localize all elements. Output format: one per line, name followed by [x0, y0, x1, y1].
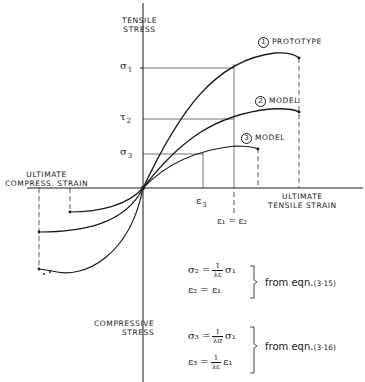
eq2-source: from eqn.(3·16)	[265, 341, 336, 352]
brace-2	[0, 0, 365, 382]
